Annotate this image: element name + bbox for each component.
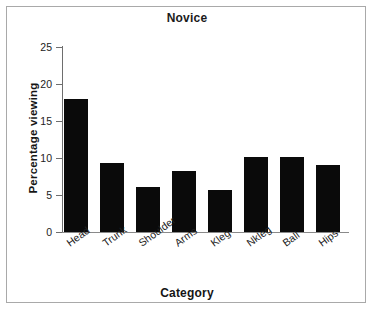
y-tick-label-1: 5 — [22, 190, 52, 201]
y-tick-label-4: 20 — [22, 79, 52, 90]
y-tick-label-3: 15 — [22, 116, 52, 127]
bar-hips — [316, 165, 340, 232]
bar-trunk — [100, 163, 124, 232]
y-tick-mark-1 — [56, 195, 62, 196]
y-tick-label-2: 10 — [22, 153, 52, 164]
bar-nkleg — [244, 157, 268, 232]
plot-area — [63, 47, 348, 232]
y-tick-mark-0 — [56, 232, 62, 233]
y-tick-label-5: 25 — [22, 42, 52, 53]
y-tick-label-0: 0 — [22, 227, 52, 238]
y-tick-mark-2 — [56, 158, 62, 159]
chart-title: Novice — [0, 11, 374, 25]
bar-ball — [280, 157, 304, 232]
x-axis-line — [62, 232, 349, 233]
y-tick-mark-5 — [56, 47, 62, 48]
y-tick-mark-4 — [56, 84, 62, 85]
y-tick-mark-3 — [56, 121, 62, 122]
bar-head — [64, 99, 88, 232]
x-axis-title: Category — [0, 286, 374, 300]
figure-root: Novice Percentage viewing 0 5 10 15 20 2… — [0, 0, 374, 311]
bar-kleg — [208, 190, 232, 232]
